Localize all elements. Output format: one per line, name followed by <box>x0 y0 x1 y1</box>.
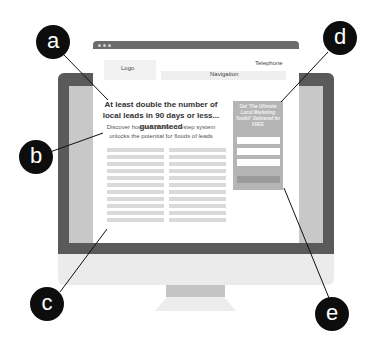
callout-c: c <box>30 287 64 321</box>
callout-d: d <box>323 21 357 55</box>
callout-b: b <box>19 140 53 174</box>
callout-a: a <box>36 25 70 59</box>
callout-e: e <box>315 297 349 331</box>
